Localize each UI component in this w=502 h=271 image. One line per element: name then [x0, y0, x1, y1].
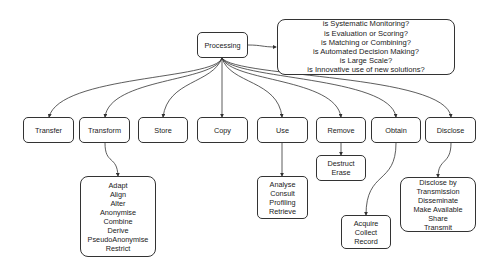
detail-item: Transmit [424, 223, 452, 232]
detail-item: Analyse [270, 180, 296, 189]
obtain-label: Obtain [385, 126, 407, 135]
detail-item: Combine [103, 217, 132, 226]
detail-item: Anonymise [100, 208, 136, 217]
detail-item: Acquire [354, 219, 379, 228]
remove-node[interactable]: Remove [316, 117, 366, 143]
detail-item: Consult [270, 189, 295, 198]
detail-item: Derive [107, 226, 128, 235]
copy-label: Copy [214, 126, 231, 135]
obtain-details: Acquire Collect Record [341, 215, 391, 249]
detail-item: Disclose by [419, 178, 456, 187]
detail-item: Collect [355, 228, 377, 237]
transfer-label: Transfer [35, 126, 62, 135]
detail-item: Profiling [269, 198, 295, 207]
disclose-node[interactable]: Disclose [425, 117, 476, 143]
detail-item: Erase [331, 168, 350, 177]
disclose-label: Disclose [437, 126, 465, 135]
detail-item: Alter [110, 199, 125, 208]
detail-item: Disseminate [418, 196, 458, 205]
use-details: Analyse Consult Profiling Retrieve [257, 176, 308, 219]
detail-item: PseudoAnonymise [88, 235, 149, 244]
detail-item: Align [110, 190, 126, 199]
detail-item: Record [354, 237, 378, 246]
detail-item: Destruct [327, 159, 354, 168]
criteria-line: is Innovative use of new solutions? [307, 65, 424, 74]
remove-label: Remove [327, 126, 354, 135]
use-label: Use [276, 126, 289, 135]
transform-label: Transform [88, 126, 121, 135]
store-label: Store [154, 126, 171, 135]
transfer-node[interactable]: Transfer [23, 117, 74, 143]
criteria-line: is Large Scale? [340, 56, 392, 65]
detail-item: Transmission [416, 187, 459, 196]
detail-item: Make Available [414, 205, 463, 214]
store-node[interactable]: Store [138, 117, 188, 143]
transform-details: Adapt Align Alter Anonymise Combine Deri… [80, 176, 156, 257]
processing-node[interactable]: Processing [197, 32, 248, 58]
criteria-line: is Automated Decision Making? [313, 47, 419, 56]
use-node[interactable]: Use [257, 117, 308, 143]
obtain-node[interactable]: Obtain [371, 117, 421, 143]
criteria-line: is Evaluation or Scoring? [324, 29, 408, 38]
detail-item: Retrieve [269, 207, 296, 216]
criteria-box: is Systematic Monitoring? is Evaluation … [277, 19, 455, 75]
detail-item: Restrict [106, 244, 131, 253]
criteria-line: is Matching or Combining? [321, 38, 411, 47]
processing-label: Processing [204, 41, 240, 50]
detail-item: Adapt [108, 181, 127, 190]
remove-details: Destruct Erase [316, 155, 366, 181]
transform-node[interactable]: Transform [79, 117, 130, 143]
criteria-line: is Systematic Monitoring? [323, 19, 410, 28]
copy-node[interactable]: Copy [197, 117, 248, 143]
disclose-details: Disclose by Transmission Disseminate Mak… [400, 177, 476, 232]
detail-item: Share [428, 214, 447, 223]
